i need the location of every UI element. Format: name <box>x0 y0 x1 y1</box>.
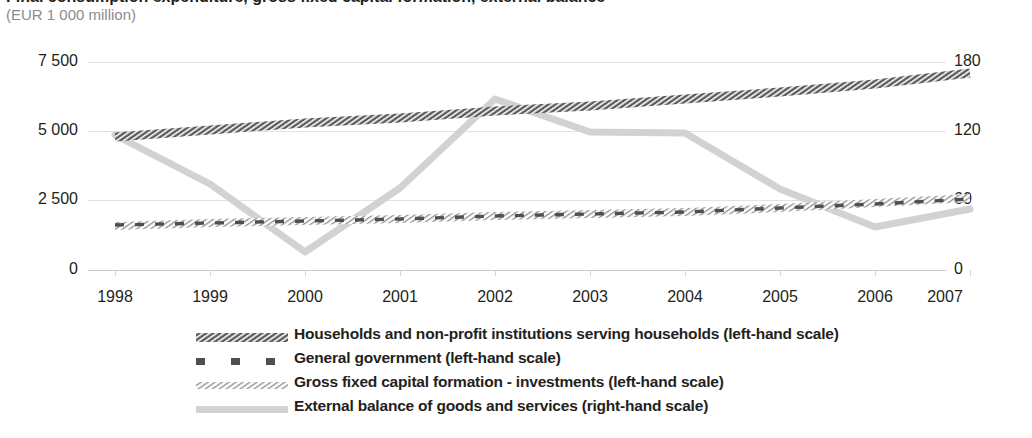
legend-swatch-light-hatched-icon <box>196 377 288 388</box>
legend-item-gross-fixed-capital-formation: Gross fixed capital formation - investme… <box>196 370 956 394</box>
x-tick-2004 <box>685 270 686 276</box>
chart-units-subtitle: (EUR 1 000 million) <box>6 6 136 23</box>
y-axis-left-tick-2500: 2 500 <box>0 190 78 208</box>
x-tick-2005 <box>780 270 781 276</box>
x-axis-label-1998: 1998 <box>97 288 133 306</box>
legend-swatch-dark-dashed-icon <box>196 353 288 364</box>
x-axis-label-2003: 2003 <box>572 288 608 306</box>
legend-item-households: Households and non-profit institutions s… <box>196 322 956 346</box>
x-tick-2003 <box>590 270 591 276</box>
series-external-balance <box>115 99 970 252</box>
series-layer <box>88 62 946 270</box>
x-axis-label-2005: 2005 <box>762 288 798 306</box>
y-axis-left-tick-0: 0 <box>0 260 78 278</box>
x-tick-2007 <box>970 270 971 276</box>
x-axis-label-2007: 2007 <box>927 288 963 306</box>
y-axis-right-tick-0: 0 <box>954 260 1014 278</box>
x-axis-baseline <box>88 270 946 271</box>
x-tick-2001 <box>400 270 401 276</box>
legend-swatch-thick-gray-icon <box>196 401 288 412</box>
y-axis-right-tick-180: 180 <box>954 52 1014 70</box>
legend-item-general-government: General government (left-hand scale) <box>196 346 956 370</box>
y-axis-left-tick-7500: 7 500 <box>0 52 78 70</box>
x-axis-label-2006: 2006 <box>857 288 893 306</box>
x-tick-1998 <box>115 270 116 276</box>
x-tick-2006 <box>875 270 876 276</box>
x-axis-label-2002: 2002 <box>477 288 513 306</box>
legend-label-external-balance: External balance of goods and services (… <box>294 397 708 415</box>
x-tick-2002 <box>495 270 496 276</box>
chart-legend: Households and non-profit institutions s… <box>196 322 956 418</box>
x-axis-label-2004: 2004 <box>667 288 703 306</box>
y-axis-right-tick-120: 120 <box>954 121 1014 139</box>
legend-swatch-dark-hatched-icon <box>196 329 288 340</box>
series-households <box>115 73 970 137</box>
x-tick-1999 <box>210 270 211 276</box>
x-axis-label-2001: 2001 <box>382 288 418 306</box>
x-tick-2000 <box>305 270 306 276</box>
y-axis-left-tick-5000: 5 000 <box>0 121 78 139</box>
x-axis-label-1999: 1999 <box>192 288 228 306</box>
chart-page: Final consumption expenditure, gross fix… <box>0 0 1032 438</box>
legend-label-households: Households and non-profit institutions s… <box>294 325 839 343</box>
legend-item-external-balance: External balance of goods and services (… <box>196 394 956 418</box>
legend-label-gross-fixed-capital-formation: Gross fixed capital formation - investme… <box>294 373 724 391</box>
x-axis-label-2000: 2000 <box>287 288 323 306</box>
legend-label-general-government: General government (left-hand scale) <box>294 349 561 367</box>
plot-area <box>88 62 946 270</box>
